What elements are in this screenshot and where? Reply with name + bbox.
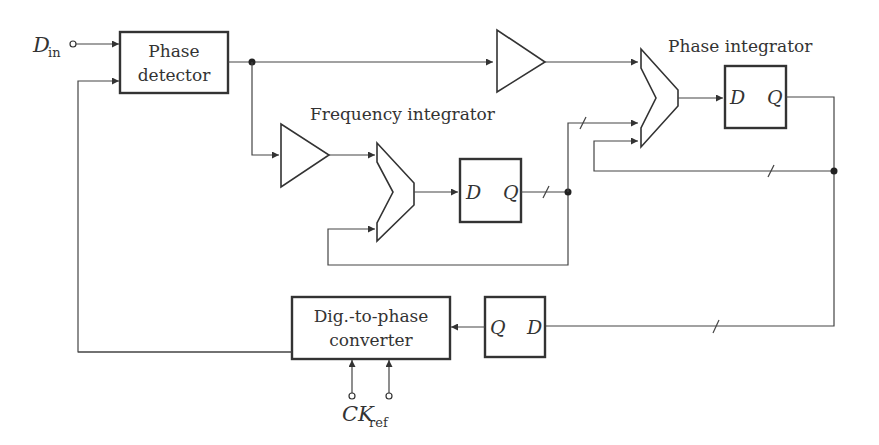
phase-gain-amplifier (497, 30, 545, 92)
din-terminal-icon (70, 41, 76, 47)
adpll-diagram: D in Phase detector Frequency integrator… (0, 0, 879, 445)
dtp-label-2: converter (329, 330, 413, 350)
out-dff-d-label: D (526, 316, 542, 338)
phase-dff-q-label: Q (767, 86, 783, 108)
phase-feedback-wire (594, 141, 834, 171)
output-dff: Q D (485, 297, 545, 357)
frequency-dff: D Q (460, 159, 521, 222)
phase-dff: D Q (725, 66, 786, 128)
phase-adder (641, 49, 678, 147)
dtp-label-1: Dig.-to-phase (314, 306, 429, 326)
freq-feedback-wire (328, 192, 568, 265)
junction-dot (831, 168, 838, 175)
frequency-gain-amplifier (281, 124, 329, 187)
din-input: D in (32, 33, 119, 60)
phase-detector-label-1: Phase (148, 41, 199, 61)
freq-dff-q-label: Q (503, 181, 519, 203)
ckref-terminal-icon (349, 393, 355, 399)
pd-to-freq-gain-wire (252, 62, 279, 155)
dig-to-phase-converter-block: Dig.-to-phase converter (292, 297, 450, 359)
phase-dff-out-wire (523, 97, 834, 326)
freq-dff-d-label: D (465, 181, 481, 203)
ckref-terminal-icon (386, 393, 392, 399)
freq-to-phase-adder-wire (568, 123, 638, 192)
phase-detector-block: Phase detector (120, 32, 228, 93)
phase-dff-d-label: D (729, 86, 745, 108)
out-dff-q-label: Q (490, 316, 506, 338)
ckref-inputs: CK ref (342, 360, 392, 430)
phase-integrator-label: Phase integrator (668, 36, 813, 56)
din-subscript: in (48, 45, 61, 60)
frequency-adder (377, 143, 414, 241)
phase-detector-label-2: detector (138, 65, 211, 85)
ckref-subscript: ref (369, 415, 389, 430)
frequency-integrator-label: Frequency integrator (310, 104, 496, 124)
